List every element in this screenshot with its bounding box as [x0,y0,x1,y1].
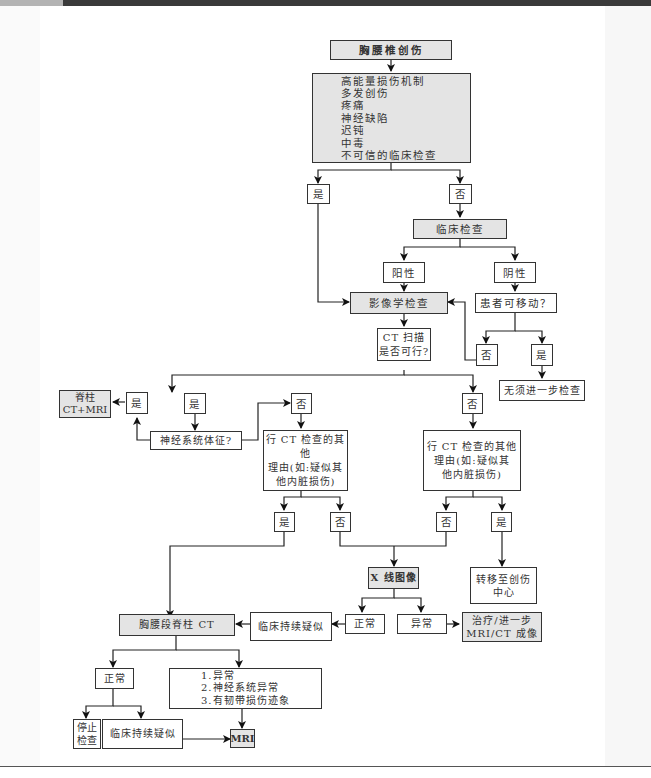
decision-yes-risk: 是 [307,184,330,204]
positive-box: 阳性 [383,262,425,283]
imaging-exam-label: 影像学检查 [369,296,429,310]
ct-abnormal-item: 1.异常 [201,670,290,683]
ct-feasible-line: 是否可行? [379,345,429,359]
ct-abnormal-item: 2.神经系统异常 [201,682,290,695]
risk-factor-item: 迟钝 [341,124,437,136]
other-ct-reason-box-right: 行 CT 检查的其他 理由(如:疑似其 他内脏损伤) [423,430,521,491]
clinical-suspicion-label: 临床持续疑似 [258,620,324,634]
no-label: 否 [467,397,479,411]
risk-factors-box: 高能量损伤机制 多发创伤 疼痛 神经缺陷 迟钝 中毒 不可信的临床检查 [312,73,471,163]
mri-box: MRI [230,729,255,748]
clinical-exam-label: 临床检查 [436,222,484,236]
xray-imaging-label: X 线图像 [370,571,416,585]
transfer-trauma-center-box: 转移至创伤 中心 [470,567,537,604]
risk-factor-item: 中毒 [341,137,437,149]
negative-label: 阴性 [503,266,527,280]
transfer-line: 中心 [476,586,531,599]
positive-label: 阳性 [392,266,416,280]
other-ct-reason-line: 理由(如:疑似其 [427,454,518,468]
stop-exam-box: 停止 检查 [73,719,101,749]
tl-spine-ct-label: 胸腰段脊柱 CT [139,618,215,632]
decision-yes-other-right: 是 [491,512,512,532]
neuro-signs-box: 神经系统体征? [150,431,242,450]
risk-factor-item: 多发创伤 [341,87,437,99]
decision-no-mobile: 否 [476,344,498,366]
normal-label: 正常 [354,617,376,631]
ct-abnormal-item: 3.有韧带损伤迹象 [201,695,290,708]
normal-label: 正常 [104,672,126,686]
ct-feasible-line: CT 扫描 [379,331,429,345]
no-label: 否 [335,515,347,529]
treatment-line: 治疗/进一步 [466,614,538,627]
xray-imaging-box: X 线图像 [368,567,419,589]
xray-normal-box: 正常 [345,614,385,634]
bottom-divider [0,766,651,767]
title-label: 胸腰椎创伤 [359,43,424,57]
risk-factor-item: 不可信的临床检查 [341,149,437,161]
title-box-thoracolumbar-trauma: 胸腰椎创伤 [330,40,452,60]
imaging-exam-box: 影像学检查 [350,292,448,314]
xray-abnormal-box: 异常 [397,614,447,634]
other-ct-reason-line: 他内脏损伤) [427,468,518,482]
decision-no-other-left: 否 [330,512,351,532]
clinical-suspicion-box-bottom: 临床持续疑似 [102,719,183,749]
decision-yes-ct: 是 [184,393,206,414]
risk-factor-item: 神经缺陷 [341,112,437,124]
other-ct-reason-box-left: 行 CT 检查的其他 理由(如:疑似其 他内脏损伤) [263,430,348,491]
decision-no-neuro: 否 [291,393,312,414]
other-ct-reason-line: 行 CT 检查的其他 [427,440,518,454]
decision-yes-mobile: 是 [531,344,553,366]
other-ct-reason-line: 行 CT 检查的其他 [264,433,347,461]
yes-label: 是 [536,348,548,362]
spine-ct-mri-line: CT+MRI [63,404,107,416]
patient-mobile-label: 患者可移动？ [480,296,552,310]
spine-ct-mri-box: 脊柱 CT+MRI [59,390,111,418]
risk-factor-item: 高能量损伤机制 [341,75,437,87]
decision-yes-other-left: 是 [274,512,295,532]
other-ct-reason-line: 他内脏损伤) [264,475,347,489]
no-label: 否 [455,187,467,201]
yes-label: 是 [279,515,291,529]
treatment-line: MRI/CT 成像 [466,627,538,640]
decision-no-risk: 否 [449,184,472,204]
decision-yes-neuro: 是 [126,392,148,414]
spine-ct-mri-line: 脊柱 [63,392,107,404]
mri-label: MRI [230,732,254,746]
clinical-suspicion-box-middle: 临床持续疑似 [250,612,332,641]
ct-feasible-box: CT 扫描 是否可行? [377,328,431,361]
stop-exam-line: 检查 [77,734,97,747]
yes-label: 是 [131,396,143,410]
no-further-exam-label: 无须进一步检查 [504,384,581,398]
neuro-signs-label: 神经系统体征? [160,434,232,448]
patient-mobile-box: 患者可移动？ [475,293,557,313]
ct-normal-box: 正常 [95,668,134,689]
yes-label: 是 [496,515,508,529]
yes-label: 是 [313,187,325,201]
decision-no-ct: 否 [462,393,483,414]
no-label: 否 [296,397,308,411]
risk-factor-item: 疼痛 [341,99,437,111]
yes-label: 是 [189,397,201,411]
stop-exam-line: 停止 [77,721,97,734]
decision-no-other-right: 否 [436,512,457,532]
treatment-further-imaging-box: 治疗/进一步 MRI/CT 成像 [462,612,542,642]
no-further-exam-box: 无须进一步检查 [499,380,585,401]
ct-abnormal-list-box: 1.异常 2.神经系统异常 3.有韧带损伤迹象 [169,668,322,709]
negative-box: 阴性 [494,262,536,283]
clinical-suspicion-label: 临床持续疑似 [110,727,176,741]
no-label: 否 [441,515,453,529]
clinical-exam-box: 临床检查 [413,219,507,239]
tl-spine-ct-box: 胸腰段脊柱 CT [119,614,235,636]
no-label: 否 [481,348,493,362]
transfer-line: 转移至创伤 [476,573,531,586]
other-ct-reason-line: 理由(如:疑似其 [264,461,347,475]
abnormal-label: 异常 [411,617,433,631]
